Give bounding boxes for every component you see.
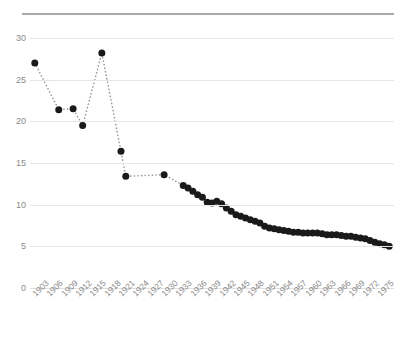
y-tick-label: 25: [0, 76, 26, 85]
data-point[interactable]: [161, 171, 168, 178]
plot-area: [30, 38, 394, 288]
gridline: [30, 246, 394, 247]
y-axis-tick-labels: 302520151050: [0, 38, 26, 288]
clipped-title-strip: [0, 0, 405, 12]
y-tick-label: 15: [0, 159, 26, 168]
data-point[interactable]: [98, 50, 105, 57]
data-point[interactable]: [70, 105, 77, 112]
data-point[interactable]: [79, 122, 86, 129]
y-tick-label: 20: [0, 117, 26, 126]
y-tick-label: 10: [0, 201, 26, 210]
gridline: [30, 163, 394, 164]
gridline: [30, 121, 394, 122]
data-point[interactable]: [31, 60, 38, 67]
data-point[interactable]: [122, 173, 129, 180]
y-tick-label: 5: [0, 242, 26, 251]
gridline: [30, 38, 394, 39]
data-point[interactable]: [118, 148, 125, 155]
x-axis-tick-labels: 1903190619091912191519181921192419271930…: [0, 292, 405, 341]
chart-page: 302520151050 190319061909191219151918192…: [0, 0, 405, 341]
header-divider: [22, 13, 394, 15]
data-point[interactable]: [55, 106, 62, 113]
series-connector: [35, 53, 389, 246]
gridline: [30, 205, 394, 206]
gridline: [30, 80, 394, 81]
y-tick-label: 30: [0, 34, 26, 43]
